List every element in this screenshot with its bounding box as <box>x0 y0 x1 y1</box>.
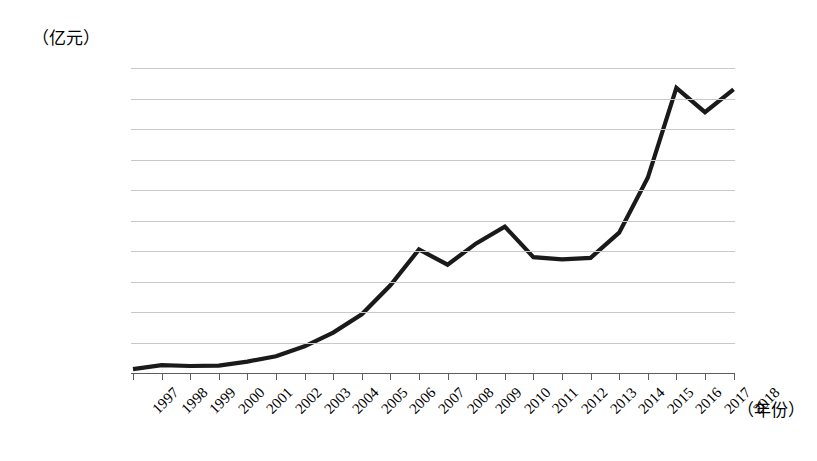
x-axis-tick-mark <box>305 373 306 380</box>
x-axis-tick-label: 2007 <box>436 385 468 417</box>
x-axis-tick-label: 2005 <box>379 385 411 417</box>
x-axis-tick-label: 2001 <box>264 385 296 417</box>
x-axis-tick-labels: 1997199819992000200120022003200420052006… <box>0 0 817 461</box>
x-axis-tick-mark <box>505 373 506 380</box>
x-axis-tick-mark <box>162 373 163 380</box>
x-axis-tick-mark <box>533 373 534 380</box>
x-axis-tick-mark <box>247 373 248 380</box>
x-axis-tick-label: 2010 <box>522 385 554 417</box>
x-axis-tick-label: 2011 <box>550 385 581 416</box>
x-axis-tick-label: 2002 <box>293 385 325 417</box>
x-axis-tick-label: 2015 <box>665 385 697 417</box>
x-axis-tick-label: 2014 <box>636 385 668 417</box>
x-axis-tick-label: 1999 <box>207 385 239 417</box>
x-axis-name-label: （年份） <box>737 396 805 421</box>
x-axis-tick-mark <box>190 373 191 380</box>
x-axis-tick-label: 1997 <box>150 385 182 417</box>
x-axis-tick-mark <box>219 373 220 380</box>
x-axis-tick-label: 2000 <box>236 385 268 417</box>
x-axis-tick-mark <box>676 373 677 380</box>
x-axis-tick-mark <box>276 373 277 380</box>
x-axis-tick-label: 2009 <box>493 385 525 417</box>
x-axis-tick-label: 2008 <box>464 385 496 417</box>
x-axis-tick-mark <box>619 373 620 380</box>
x-axis-tick-label: 2012 <box>579 385 611 417</box>
x-axis-tick-mark <box>591 373 592 380</box>
x-axis-tick-mark <box>648 373 649 380</box>
x-axis-tick-mark <box>734 373 735 380</box>
x-axis-tick-mark <box>476 373 477 380</box>
x-axis-tick-label: 2004 <box>350 385 382 417</box>
x-axis-tick-mark <box>362 373 363 380</box>
line-chart: （亿元） 200000.00180000.00160000.00140000.0… <box>0 0 817 461</box>
x-axis-tick-label: 2003 <box>321 385 353 417</box>
x-axis-tick-mark <box>390 373 391 380</box>
x-axis-tick-mark <box>133 373 134 380</box>
x-axis-tick-mark <box>562 373 563 380</box>
x-axis-tick-mark <box>705 373 706 380</box>
x-axis-tick-label: 2013 <box>607 385 639 417</box>
x-axis-tick-label: 2006 <box>407 385 439 417</box>
x-axis-tick-label: 2016 <box>693 385 725 417</box>
x-axis-tick-mark <box>448 373 449 380</box>
x-axis-tick-label: 1998 <box>178 385 210 417</box>
x-axis-tick-mark <box>333 373 334 380</box>
x-axis-tick-mark <box>419 373 420 380</box>
